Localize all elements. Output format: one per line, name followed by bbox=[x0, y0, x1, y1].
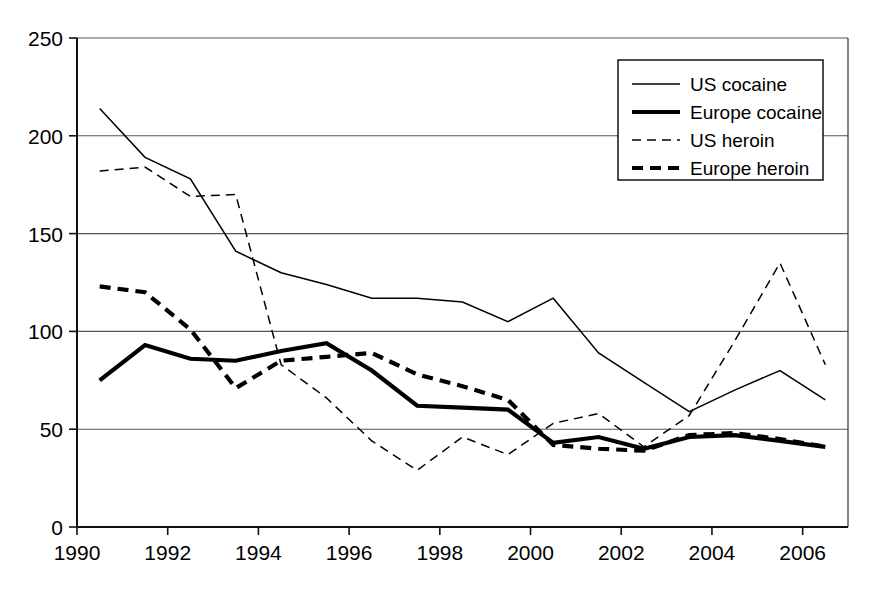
x-tick-label-2002: 2002 bbox=[598, 541, 645, 564]
x-tick-label-1996: 1996 bbox=[326, 541, 373, 564]
series-line-europe-heroin bbox=[100, 286, 826, 450]
y-axis-ticks bbox=[69, 38, 77, 527]
x-tick-label-2000: 2000 bbox=[507, 541, 554, 564]
series-line-europe-cocaine bbox=[100, 343, 826, 449]
x-tick-label-1990: 1990 bbox=[54, 541, 101, 564]
x-axis-ticks bbox=[77, 527, 803, 535]
legend-label-us-heroin: US heroin bbox=[690, 130, 775, 151]
line-chart: 050100150200250 199019921994199619982000… bbox=[0, 0, 874, 591]
y-tick-label-250: 250 bbox=[28, 27, 63, 50]
chart-legend: US cocaineEurope cocaineUS heroinEurope … bbox=[618, 60, 823, 180]
y-tick-label-200: 200 bbox=[28, 125, 63, 148]
y-axis-tick-labels: 050100150200250 bbox=[28, 27, 63, 539]
x-tick-label-1992: 1992 bbox=[144, 541, 191, 564]
legend-label-europe-heroin: Europe heroin bbox=[690, 158, 809, 179]
y-tick-label-100: 100 bbox=[28, 320, 63, 343]
x-tick-label-2004: 2004 bbox=[689, 541, 736, 564]
legend-label-us-cocaine: US cocaine bbox=[690, 74, 787, 95]
x-tick-label-2006: 2006 bbox=[779, 541, 826, 564]
y-tick-label-0: 0 bbox=[51, 516, 63, 539]
x-tick-label-1998: 1998 bbox=[416, 541, 463, 564]
y-tick-label-150: 150 bbox=[28, 223, 63, 246]
x-axis-tick-labels: 199019921994199619982000200220042006 bbox=[54, 541, 826, 564]
y-tick-label-50: 50 bbox=[40, 418, 63, 441]
chart-figure: 050100150200250 199019921994199619982000… bbox=[0, 0, 874, 591]
x-tick-label-1994: 1994 bbox=[235, 541, 282, 564]
legend-label-europe-cocaine: Europe cocaine bbox=[690, 102, 822, 123]
series-line-us-heroin bbox=[100, 167, 826, 470]
